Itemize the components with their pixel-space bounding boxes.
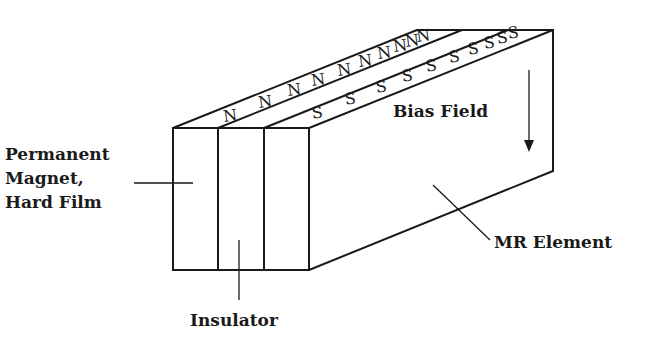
mr-element-leader <box>433 185 490 240</box>
mr-sensor-diagram: NNNNNNNNNN SSSSSSSSSS Permanent Magnet, … <box>0 0 665 342</box>
permanent-magnet-label-line1: Permanent <box>5 144 110 164</box>
north-pole-mark: N <box>286 79 302 100</box>
mr-element-label: MR Element <box>494 232 612 252</box>
bias-field-arrow-icon <box>524 140 534 152</box>
south-pole-mark: S <box>507 22 520 42</box>
north-pole-mark: N <box>310 69 326 90</box>
permanent-magnet-label-line3: Hard Film <box>5 192 102 212</box>
insulator-label: Insulator <box>190 310 279 330</box>
north-pole-mark: N <box>257 91 273 112</box>
bottom-right-edge <box>309 171 553 270</box>
north-pole-mark: N <box>415 25 431 46</box>
north-pole-mark: N <box>336 59 352 80</box>
north-pole-mark: N <box>357 50 373 71</box>
front-face <box>173 128 309 270</box>
north-pole-mark: N <box>222 105 238 126</box>
north-pole-mark: N <box>376 42 392 63</box>
bias-field-label: Bias Field <box>393 101 488 121</box>
permanent-magnet-label-line2: Magnet, <box>5 168 84 188</box>
